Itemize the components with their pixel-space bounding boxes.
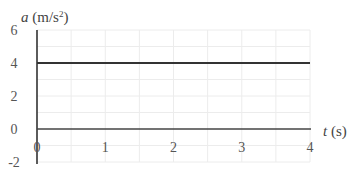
y-axis-label: a (m/s2) bbox=[21, 9, 68, 26]
y-tick-label: 6 bbox=[11, 23, 18, 38]
y-tick-label: 4 bbox=[11, 56, 18, 71]
y-tick-label: 2 bbox=[11, 89, 18, 104]
origin-label: 0 bbox=[34, 140, 41, 155]
acceleration-time-chart: 12346420-2 a (m/s2) t (s) 0 bbox=[0, 0, 356, 177]
x-axis-label: t (s) bbox=[323, 123, 347, 140]
y-tick-label: 0 bbox=[11, 122, 18, 137]
x-tick-label: 2 bbox=[170, 140, 177, 155]
x-tick-label: 4 bbox=[307, 140, 314, 155]
y-tick-label: -2 bbox=[8, 155, 20, 170]
x-tick-label: 1 bbox=[102, 140, 109, 155]
x-tick-label: 3 bbox=[238, 140, 245, 155]
